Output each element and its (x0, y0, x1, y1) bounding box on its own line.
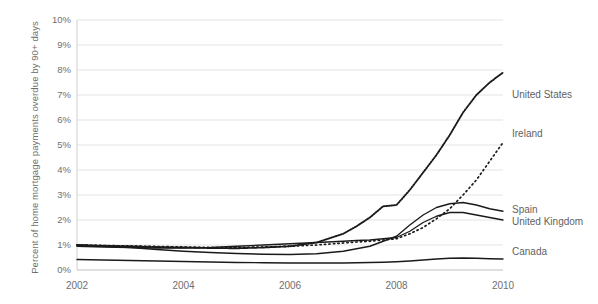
series-label: United States (512, 89, 572, 100)
series-line (77, 258, 503, 263)
chart-container: Percent of home mortgage payments overdu… (0, 0, 598, 304)
series-line (77, 213, 503, 249)
series-label: Ireland (512, 128, 543, 139)
series-line (77, 73, 503, 249)
series-label: United Kingdom (512, 216, 583, 227)
plot-area (0, 0, 598, 304)
series-label: Spain (512, 204, 538, 215)
series-label: Canada (512, 246, 547, 257)
series-lines (77, 73, 503, 264)
gridlines (77, 20, 503, 270)
